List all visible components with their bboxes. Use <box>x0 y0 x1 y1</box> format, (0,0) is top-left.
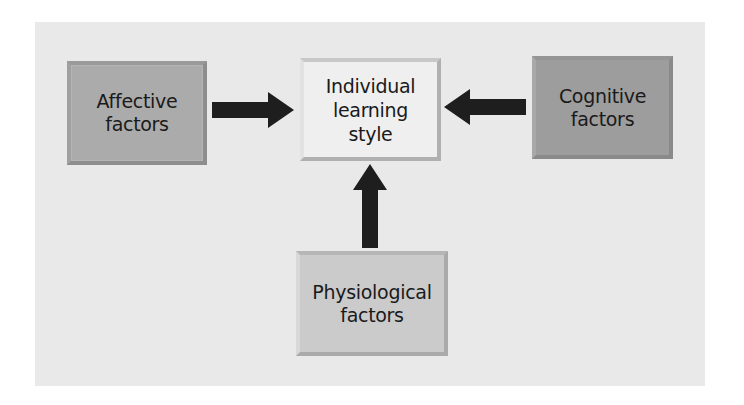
physiological-label-line2: factors <box>312 304 431 327</box>
physiological-factors-box: Physiological factors <box>296 251 448 356</box>
arrow-left-icon <box>444 89 526 125</box>
cognitive-factors-box: Cognitive factors <box>532 56 673 159</box>
cognitive-label-line1: Cognitive <box>559 85 646 108</box>
affective-factors-box: Affective factors <box>67 61 207 165</box>
arrow-up-icon <box>353 164 387 248</box>
affective-label-line1: Affective <box>97 90 178 113</box>
affective-label-line2: factors <box>97 113 178 136</box>
individual-learning-style-box: Individual learning style <box>300 58 441 161</box>
physiological-label-line1: Physiological <box>312 281 431 304</box>
cognitive-label-line2: factors <box>559 108 646 131</box>
individual-label-line2: learning <box>326 98 416 122</box>
arrow-right-icon <box>212 92 294 128</box>
individual-label-line1: Individual <box>326 74 416 98</box>
individual-label-line3: style <box>326 122 416 146</box>
